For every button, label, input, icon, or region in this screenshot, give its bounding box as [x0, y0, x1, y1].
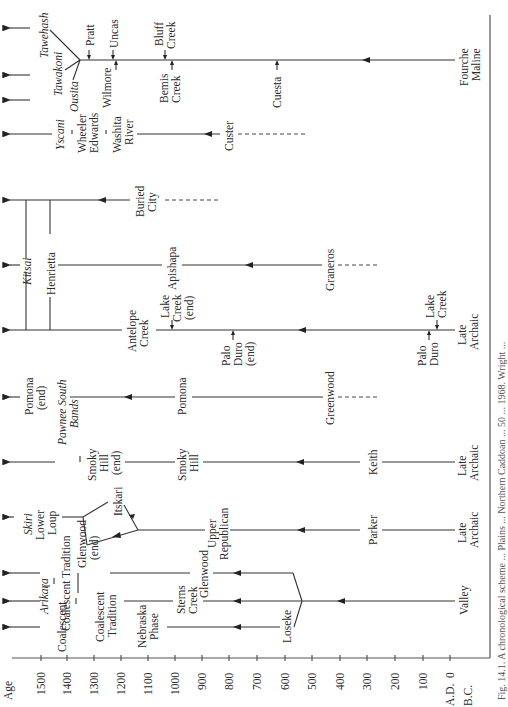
- label-glenwood: Glenwood: [198, 550, 210, 598]
- label-tawakoni: Tawakoni: [52, 52, 64, 96]
- label-keith: Keith: [367, 449, 379, 475]
- tick-1300: 1300: [88, 672, 100, 695]
- smoky-hill-sequence: Smoky Hill (end) Smoky Hill Keith Late A…: [10, 445, 480, 481]
- label-henrietta: Henrietta: [45, 252, 57, 295]
- label-coalescent-2: Coalescent: [94, 591, 106, 642]
- tick-400: 400: [334, 673, 346, 691]
- label-coalescent-lower: Coalescent: [56, 601, 68, 652]
- tick-1400: 1400: [61, 672, 73, 695]
- tick-300: 300: [361, 673, 373, 691]
- label-glenwood-end-1: Glenwood: [76, 520, 88, 568]
- tick-200: 200: [389, 673, 401, 691]
- label-smoky-end-3: (end): [110, 451, 123, 475]
- label-parker: Parker: [367, 515, 379, 545]
- label-smoky-2: Hill: [188, 454, 200, 472]
- label-late-3: Late: [456, 523, 468, 543]
- label-glenwood-end-2: (end): [88, 536, 101, 560]
- label-loup: Loup: [46, 510, 59, 535]
- label-city: City: [146, 192, 159, 212]
- washita-sequence: Yscani Wheeler Edwards Washita River Cus…: [10, 112, 308, 153]
- label-late-2: Late: [456, 456, 468, 476]
- label-lake-creek-end-3: (end): [183, 296, 196, 320]
- label-archaic-1: Archaic: [468, 314, 480, 350]
- label-pomona: Pomona: [176, 377, 188, 415]
- label-antelope-creek: Creek: [138, 319, 150, 347]
- label-smoky-end-2: Hill: [98, 454, 110, 472]
- label-nebraska: Nebraska: [136, 605, 148, 648]
- panhandle-sequence: Kitsai Henrietta Buried City Apishapa Gr…: [10, 185, 480, 366]
- label-lake-creek-2: Creek: [436, 290, 448, 318]
- label-archaic-3: Archaic: [468, 512, 480, 548]
- label-custer: Custer: [223, 121, 235, 151]
- label-tawehash: Tawehash: [38, 12, 50, 58]
- label-lower: Lower: [34, 510, 46, 540]
- tick-1100: 1100: [142, 672, 154, 695]
- tick-700: 700: [251, 673, 263, 691]
- chronology-figure: Age 1500 1400 1300 1200 1100 1000 900 80…: [0, 0, 508, 707]
- label-palo-duro-end-2: Duro: [232, 342, 244, 366]
- figure-caption: Fig. 14.1. A chronological scheme ... Pl…: [496, 342, 507, 700]
- label-lake-creek-end-2: Creek: [171, 294, 183, 322]
- axis-title: Age: [2, 681, 15, 700]
- tick-100: 100: [417, 673, 429, 691]
- label-buried: Buried: [134, 185, 146, 217]
- label-wheeler: Wheeler: [76, 114, 88, 153]
- label-itskari: Itskari: [112, 487, 124, 516]
- label-edwards: Edwards: [88, 112, 100, 153]
- label-late-1: Late: [456, 325, 468, 345]
- label-cuesta: Cuesta: [271, 77, 283, 108]
- label-archaic-2: Archaic: [468, 445, 480, 481]
- label-loseke: Loseke: [281, 610, 293, 643]
- label-palo-duro-end-1: Palo: [220, 345, 232, 366]
- tick-500: 500: [306, 673, 318, 691]
- label-pawnee-south: Pawnee South: [56, 379, 68, 446]
- label-palo-duro-2: Duro: [428, 342, 440, 366]
- label-skiri: Skiri: [22, 513, 34, 535]
- pomona-sequence: Pomona (end) Pawnee South Bands Pomona G…: [10, 371, 380, 446]
- chronology-diagram: Age 1500 1400 1300 1200 1100 1000 900 80…: [0, 0, 508, 707]
- label-sterns: Sterns: [175, 585, 187, 614]
- label-valley: Valley: [458, 585, 471, 615]
- label-maline: Maline: [470, 48, 482, 81]
- tick-800: 800: [223, 673, 235, 691]
- label-republican: Republican: [218, 507, 231, 560]
- label-kitsai: Kitsai: [21, 258, 33, 286]
- label-arikara: Arikara: [38, 578, 50, 615]
- tick-600: 600: [279, 673, 291, 691]
- label-uncas: Uncas: [108, 19, 120, 48]
- label-washita: Washita: [111, 116, 123, 153]
- label-fourche: Fourche: [458, 48, 470, 86]
- label-pomona-end-2: (end): [35, 386, 48, 410]
- label-graneros: Graneros: [324, 248, 336, 291]
- label-lake-creek-end-1: Lake: [159, 295, 171, 318]
- label-bluff-creek: Creek: [165, 21, 177, 49]
- label-bemis: Bemis: [158, 73, 170, 103]
- label-apishapa: Apishapa: [166, 247, 179, 290]
- label-yscani: Yscani: [54, 119, 66, 150]
- label-palo-duro-1: Palo: [416, 345, 428, 366]
- era-ad-label: A.D.: [444, 684, 456, 706]
- tick-0: 0: [444, 672, 456, 678]
- era-bc-label: B.C.: [462, 685, 474, 706]
- age-axis-labels: Age 1500 1400 1300 1200 1100 1000 900 80…: [2, 672, 474, 706]
- label-greenwood-pomona: Greenwood: [324, 371, 336, 425]
- tick-1000: 1000: [169, 672, 181, 695]
- label-bemis-creek: Creek: [170, 75, 182, 103]
- label-pomona-end-1: Pomona: [23, 377, 35, 415]
- tick-1500: 1500: [35, 672, 47, 695]
- label-wilmore: Wilmore: [101, 68, 113, 108]
- tick-900: 900: [196, 673, 208, 691]
- label-bluff: Bluff: [153, 22, 165, 46]
- missouri-sequence: Arikara Coalescent Tradition Coalescent …: [10, 520, 471, 652]
- wichita-sequence: Tawehash Tawakoni Ousita Pratt Uncas Wil…: [10, 12, 482, 112]
- label-lake-creek-1: Lake: [424, 295, 436, 318]
- label-bands: Bands: [68, 399, 80, 428]
- label-river: River: [123, 119, 135, 145]
- label-palo-duro-end-3: (end): [244, 342, 257, 366]
- label-phase: Phase: [148, 613, 160, 640]
- tick-1200: 1200: [115, 672, 127, 695]
- label-pratt: Pratt: [84, 23, 96, 46]
- label-ousita: Ousita: [68, 81, 80, 112]
- label-tradition-2: Tradition: [106, 594, 118, 637]
